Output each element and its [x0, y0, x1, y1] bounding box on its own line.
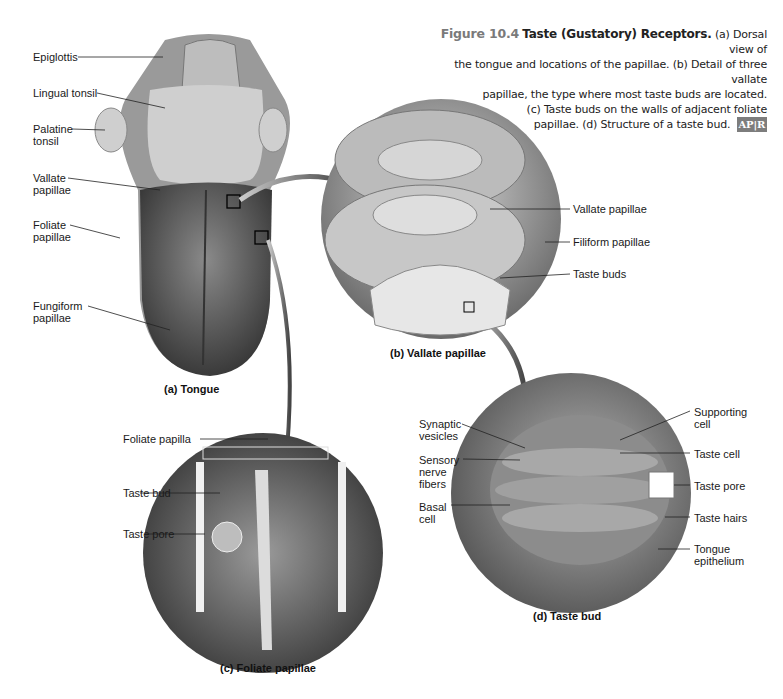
foliate-papillae-illustration: [143, 433, 383, 673]
caption-text: (c) Taste buds on the walls of adjacent …: [437, 102, 767, 117]
label-tongue-epithelium: Tongue epithelium: [694, 543, 744, 567]
caption-text: papillae, the type where most taste buds…: [437, 87, 767, 102]
panel-c-title: (c) Foliate papillae: [220, 662, 316, 674]
label-taste-hairs: Taste hairs: [694, 512, 747, 524]
label-taste-pore-c: Taste pore: [123, 528, 174, 540]
label-sensory-nerve-fibers: Sensory nerve fibers: [419, 454, 459, 490]
ap-r-badge-icon: AP|R: [737, 117, 767, 132]
caption-text: papillae. (d) Structure of a taste bud.: [534, 118, 730, 131]
label-epiglottis: Epiglottis: [33, 51, 78, 63]
caption-text: (a) Dorsal view of: [712, 28, 767, 56]
taste-bud-illustration: [451, 373, 691, 613]
label-taste-pore-d: Taste pore: [694, 480, 745, 492]
figure-number: Figure 10.4: [441, 26, 519, 41]
label-taste-cell: Taste cell: [694, 448, 740, 460]
label-vallate-papillae-b: Vallate papillae: [573, 203, 647, 215]
label-taste-bud-c: Taste bud: [123, 487, 171, 499]
panel-a-title: (a) Tongue: [164, 383, 219, 395]
label-foliate-papilla: Foliate papilla: [123, 433, 191, 445]
label-fungiform-papillae: Fungiform papillae: [33, 300, 83, 324]
label-taste-buds: Taste buds: [573, 268, 626, 280]
label-foliate-papillae: Foliate papillae: [33, 219, 71, 243]
figure-caption: Figure 10.4 Taste (Gustatory) Receptors.…: [437, 26, 767, 132]
vallate-papillae-illustration: [321, 99, 561, 339]
label-supporting-cell: Supporting cell: [694, 406, 747, 430]
figure-title: Taste (Gustatory) Receptors.: [522, 27, 711, 41]
label-basal-cell: Basal cell: [419, 501, 447, 525]
label-filiform-papillae: Filiform papillae: [573, 236, 650, 248]
panel-d-title: (d) Taste bud: [533, 610, 601, 622]
panel-b-title: (b) Vallate papillae: [390, 347, 486, 359]
caption-text: the tongue and locations of the papillae…: [437, 57, 767, 87]
label-lingual-tonsil: Lingual tonsil: [33, 87, 97, 99]
tongue-illustration: [95, 34, 290, 376]
label-synaptic-vesicles: Synaptic vesicles: [419, 418, 461, 442]
label-vallate-papillae: Vallate papillae: [33, 172, 71, 196]
label-palatine-tonsil: Palatine tonsil: [33, 123, 73, 147]
